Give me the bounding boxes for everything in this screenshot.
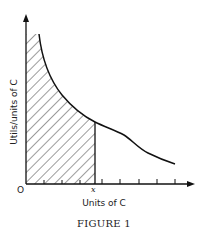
y-axis-label: Utils/units of C (9, 79, 19, 145)
x-axis-arrow-icon (187, 181, 195, 187)
hatched-area (26, 30, 96, 185)
origin-label: O (17, 185, 24, 195)
x-marker-label: x (91, 185, 96, 194)
figure-title: FIGURE 1 (0, 218, 208, 229)
x-axis-label: Units of C (0, 198, 208, 208)
y-axis-arrow-icon (23, 14, 29, 22)
